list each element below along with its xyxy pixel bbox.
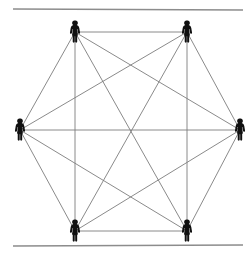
- person-bottom-left: [70, 220, 80, 242]
- connection-edges: [20, 32, 240, 231]
- person-nodes: [15, 21, 245, 242]
- top-rule: [13, 9, 243, 10]
- edge-top-right-to-right: [187, 32, 240, 130]
- edge-right-to-bottom-left: [75, 130, 240, 231]
- person-bottom-right: [182, 220, 192, 242]
- edge-bottom-left-to-left: [20, 130, 75, 231]
- edge-top-left-to-right: [75, 32, 240, 130]
- person-bottom-left-silhouette: [70, 220, 80, 242]
- edge-right-to-bottom-right: [187, 130, 240, 231]
- person-bottom-right-silhouette: [182, 220, 192, 242]
- diagram-page: [0, 0, 252, 260]
- edge-bottom-right-to-left: [20, 130, 187, 231]
- edge-top-left-to-left: [20, 32, 75, 130]
- edge-top-right-to-left: [20, 32, 187, 130]
- bottom-rule: [13, 245, 243, 246]
- horizontal-rules: [13, 9, 243, 246]
- network-diagram: [0, 0, 252, 260]
